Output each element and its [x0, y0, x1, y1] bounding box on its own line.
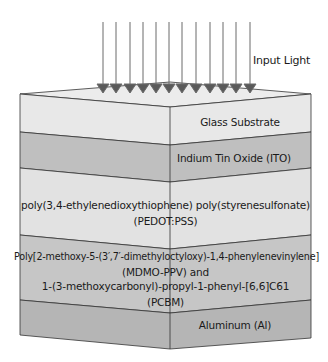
pedot-label-line1: poly(3,4-ethylenedioxythiophene) poly(st… — [20, 199, 311, 212]
arrow-icon — [217, 22, 229, 93]
arrow-icon — [190, 22, 202, 93]
arrow-icon — [97, 22, 109, 93]
active-label-line4: (PCBM) — [20, 296, 311, 309]
arrow-icon — [150, 22, 162, 93]
aluminum-label: Aluminum (Al) — [170, 319, 300, 332]
active-label-line2: (MDMO-PPV) and — [20, 266, 311, 279]
active-label-line3: 1-(3-methoxycarbonyl)-propyl-1-phenyl-[6… — [20, 280, 311, 293]
glass-label: Glass Substrate — [180, 116, 300, 129]
ito-label: Indium Tin Oxide (ITO) — [170, 152, 298, 165]
arrow-icon — [137, 22, 149, 93]
input-light-label: Input Light — [253, 54, 310, 67]
active-label-line1: Poly[2-methoxy-5-(3′,7′-dimethyloctyloxy… — [14, 250, 317, 263]
arrow-icon — [204, 22, 216, 93]
arrow-icon — [110, 22, 122, 93]
pedot-label-line2: (PEDOT:PSS) — [20, 215, 311, 228]
arrow-icon — [124, 22, 136, 93]
arrow-icon — [230, 22, 242, 93]
